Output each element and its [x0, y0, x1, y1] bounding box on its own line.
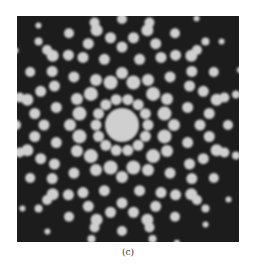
diffraction-spots [17, 16, 239, 242]
figure-caption: (c) [0, 247, 256, 257]
diffraction-pattern-image [17, 16, 239, 242]
